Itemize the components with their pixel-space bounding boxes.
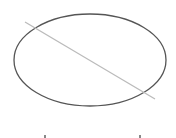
bottom-mark-right bbox=[139, 135, 141, 138]
bottom-mark-left bbox=[44, 135, 46, 138]
diagram-canvas bbox=[0, 0, 176, 138]
diagonal-line bbox=[25, 22, 155, 99]
